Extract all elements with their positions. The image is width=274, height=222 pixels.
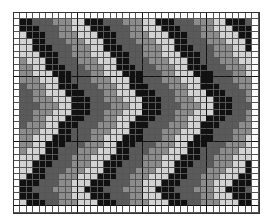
pattern-grid <box>13 12 260 214</box>
pattern-cell <box>252 206 258 212</box>
